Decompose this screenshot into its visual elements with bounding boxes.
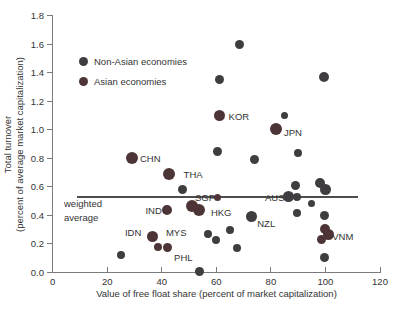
legend: Non-Asian economies Asian economies [79,51,187,91]
x-axis-title: Value of free float share (percent of ma… [52,288,381,299]
point-label-idn: IDN [125,227,141,238]
data-point [320,253,329,262]
weighted-average-annotation: weighted average [64,197,102,225]
point-label-tha: THA [184,168,203,179]
data-point [319,72,329,82]
data-point [308,200,315,207]
legend-label-non-asian: Non-Asian economies [94,56,187,67]
data-point [320,184,331,195]
data-point [320,211,329,220]
x-tick [325,267,326,272]
y-tick [47,186,52,187]
data-point-hkg [193,204,205,216]
x-tick [380,267,381,272]
x-axis [52,272,381,273]
y-tick [47,158,52,159]
point-label-hkg: HKG [211,207,232,218]
y-tick [47,272,52,273]
data-point [117,251,125,259]
point-label-mys: MYS [166,227,187,238]
legend-label-asian: Asian economies [94,76,166,87]
point-label-jpn: JPN [284,126,302,137]
data-point [154,243,162,251]
data-point [226,226,234,234]
data-point [178,185,187,194]
y-tick [47,243,52,244]
data-point [233,244,241,252]
point-label-ind: IND [145,204,161,215]
data-point [281,112,288,119]
data-point [212,236,220,244]
data-point-ind [162,205,172,215]
data-point-tha [163,168,175,180]
data-point [291,181,300,190]
y-axis-title-line2: (percent of average market capitalizatio… [14,57,25,232]
scatter-chart: 0204060801001200.00.20.40.60.81.01.21.41… [0,0,394,309]
x-tick [270,267,271,272]
legend-item-asian: Asian economies [79,71,187,91]
y-tick [47,215,52,216]
point-label-aus: AUS [265,191,285,202]
y-axis-title: Total turnover (percent of average marke… [2,16,26,273]
data-point [204,230,212,238]
y-tick [47,44,52,45]
point-label-nzl: NZL [257,217,275,228]
x-tick [216,267,217,272]
x-tick-label: 20 [93,276,121,287]
data-point-idn [147,231,158,242]
x-tick-label: 40 [148,276,176,287]
data-point-chn [126,152,138,164]
data-point-sgp [214,194,221,201]
data-point [293,193,301,201]
data-point-mys [163,243,172,252]
x-tick [107,267,108,272]
point-label-vnm: VNM [332,230,353,241]
y-tick [47,129,52,130]
data-point [294,149,302,157]
point-label-phl: PHL [174,252,192,263]
point-label-chn: CHN [140,153,161,164]
y-tick [47,101,52,102]
weighted-average-line1: weighted [64,197,102,211]
x-tick-label: 100 [311,276,339,287]
x-tick-label: 60 [202,276,230,287]
non-asian-dot-icon [79,57,88,66]
x-tick-label: 80 [257,276,285,287]
data-point [293,209,301,217]
x-tick-label: 0 [39,276,67,287]
y-axis-title-line1: Total turnover [2,116,13,174]
y-axis [52,15,53,273]
point-label-kor: KOR [229,110,250,121]
data-point [213,147,222,156]
x-tick [52,267,53,272]
data-point [250,155,259,164]
y-tick [47,72,52,73]
point-label-sgp: SGP [195,192,215,203]
data-point-nzl [246,211,257,222]
data-point [235,40,244,49]
data-point-kor [214,110,225,121]
x-tick-label: 120 [366,276,394,287]
y-tick [47,15,52,16]
data-point [195,267,204,276]
data-point [215,75,224,84]
legend-item-non-asian: Non-Asian economies [79,51,187,71]
weighted-average-line2: average [64,211,102,225]
x-tick [161,267,162,272]
data-point-jpn [270,123,282,135]
data-point [317,235,326,244]
asian-dot-icon [79,77,88,86]
